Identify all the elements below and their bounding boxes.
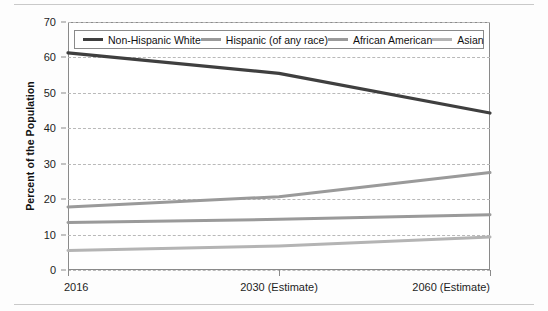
legend-item: Non-Hispanic White (83, 34, 201, 46)
legend-item: African American (328, 34, 432, 46)
legend-item: Hispanic (of any race) (201, 34, 328, 46)
y-tick-label: 40 (44, 122, 56, 134)
legend-label: African American (353, 34, 432, 46)
y-tick-label: 20 (44, 193, 56, 205)
legend-swatch-icon (83, 38, 103, 41)
x-tick-mark (279, 270, 280, 276)
legend-swatch-icon (432, 38, 452, 41)
plot-area: Non-Hispanic WhiteHispanic (of any race)… (68, 22, 490, 270)
y-tick-label: 60 (44, 51, 56, 63)
x-tick-label: 2030 (Estimate) (240, 281, 318, 293)
legend-label: Non-Hispanic White (108, 34, 201, 46)
legend: Non-Hispanic WhiteHispanic (of any race)… (74, 30, 484, 49)
y-tick-mark (61, 57, 66, 58)
y-tick-label: 10 (44, 229, 56, 241)
series-line (68, 173, 490, 207)
legend-label: Asian (457, 34, 483, 46)
x-tick-label: 2016 (64, 281, 88, 293)
y-tick-label: 50 (44, 87, 56, 99)
y-axis: 010203040506070 (0, 22, 66, 270)
y-tick-mark (61, 22, 66, 23)
y-tick-mark (61, 199, 66, 200)
legend-swatch-icon (201, 38, 221, 41)
y-tick-mark (61, 270, 66, 271)
y-tick-mark (61, 163, 66, 164)
series-line (68, 53, 490, 113)
x-tick-mark (68, 270, 69, 276)
y-tick-mark (61, 128, 66, 129)
x-axis: 20162030 (Estimate)2060 (Estimate) (68, 270, 490, 310)
x-tick-label: 2060 (Estimate) (412, 281, 490, 293)
legend-swatch-icon (328, 38, 348, 41)
y-tick-label: 0 (50, 264, 56, 276)
y-tick-label: 70 (44, 16, 56, 28)
y-tick-mark (61, 92, 66, 93)
legend-item: Asian (432, 34, 483, 46)
series-line (68, 215, 490, 223)
legend-label: Hispanic (of any race) (226, 34, 328, 46)
top-divider (14, 4, 534, 5)
y-tick-mark (61, 234, 66, 235)
y-tick-label: 30 (44, 158, 56, 170)
series-line (68, 237, 490, 250)
series-lines (68, 22, 490, 270)
x-tick-mark (490, 270, 491, 276)
chart-figure: Percent of the Population 01020304050607… (0, 0, 548, 311)
